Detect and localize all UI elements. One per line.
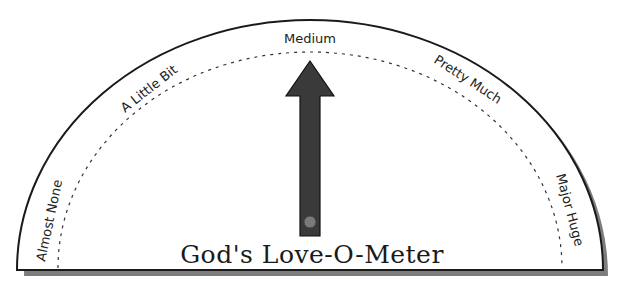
label-medium: Medium bbox=[284, 31, 336, 46]
pointer-pivot bbox=[304, 216, 316, 228]
gauge-title: God's Love-O-Meter bbox=[180, 240, 444, 269]
love-o-meter-gauge: Almost None A Little Bit Medium Pretty M… bbox=[0, 0, 623, 287]
